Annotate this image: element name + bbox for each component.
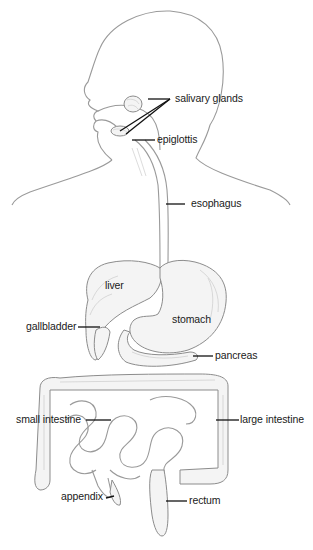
label-gallbladder: gallbladder <box>26 321 76 332</box>
appendix-shape <box>110 480 121 505</box>
large-intestine-shape <box>35 374 228 490</box>
label-appendix: appendix <box>61 491 103 502</box>
salivary-glands-shape <box>111 96 142 136</box>
gallbladder-shape <box>94 327 110 360</box>
label-esophagus: esophagus <box>191 198 241 209</box>
label-rectum: rectum <box>189 495 221 506</box>
label-stomach: stomach <box>172 314 211 325</box>
digestive-system-illustration <box>0 0 313 550</box>
label-small-intestine: small intestine <box>16 414 81 425</box>
small-intestine-shape <box>66 397 196 498</box>
label-epiglottis: epiglottis <box>157 134 197 145</box>
rectum-shape <box>150 470 168 536</box>
label-liver: liver <box>105 280 124 291</box>
label-pancreas: pancreas <box>215 350 257 361</box>
label-large-intestine: large intestine <box>240 414 304 425</box>
label-salivary-glands: salivary glands <box>175 93 243 104</box>
esophagus-shape <box>132 140 168 268</box>
head-torso-outline <box>12 11 290 205</box>
